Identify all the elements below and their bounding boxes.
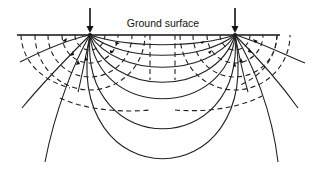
right-electrode-arrow-icon	[232, 8, 239, 37]
right-outer-flow-lines	[235, 35, 305, 162]
left-electrode-arrow-icon	[87, 8, 94, 37]
electrode-current-flow-diagram: Ground surface	[0, 0, 322, 186]
ground-surface-label: Ground surface	[127, 17, 200, 29]
left-outer-flow-lines	[20, 35, 90, 162]
inter-electrode-flow-lines	[87, 35, 238, 159]
